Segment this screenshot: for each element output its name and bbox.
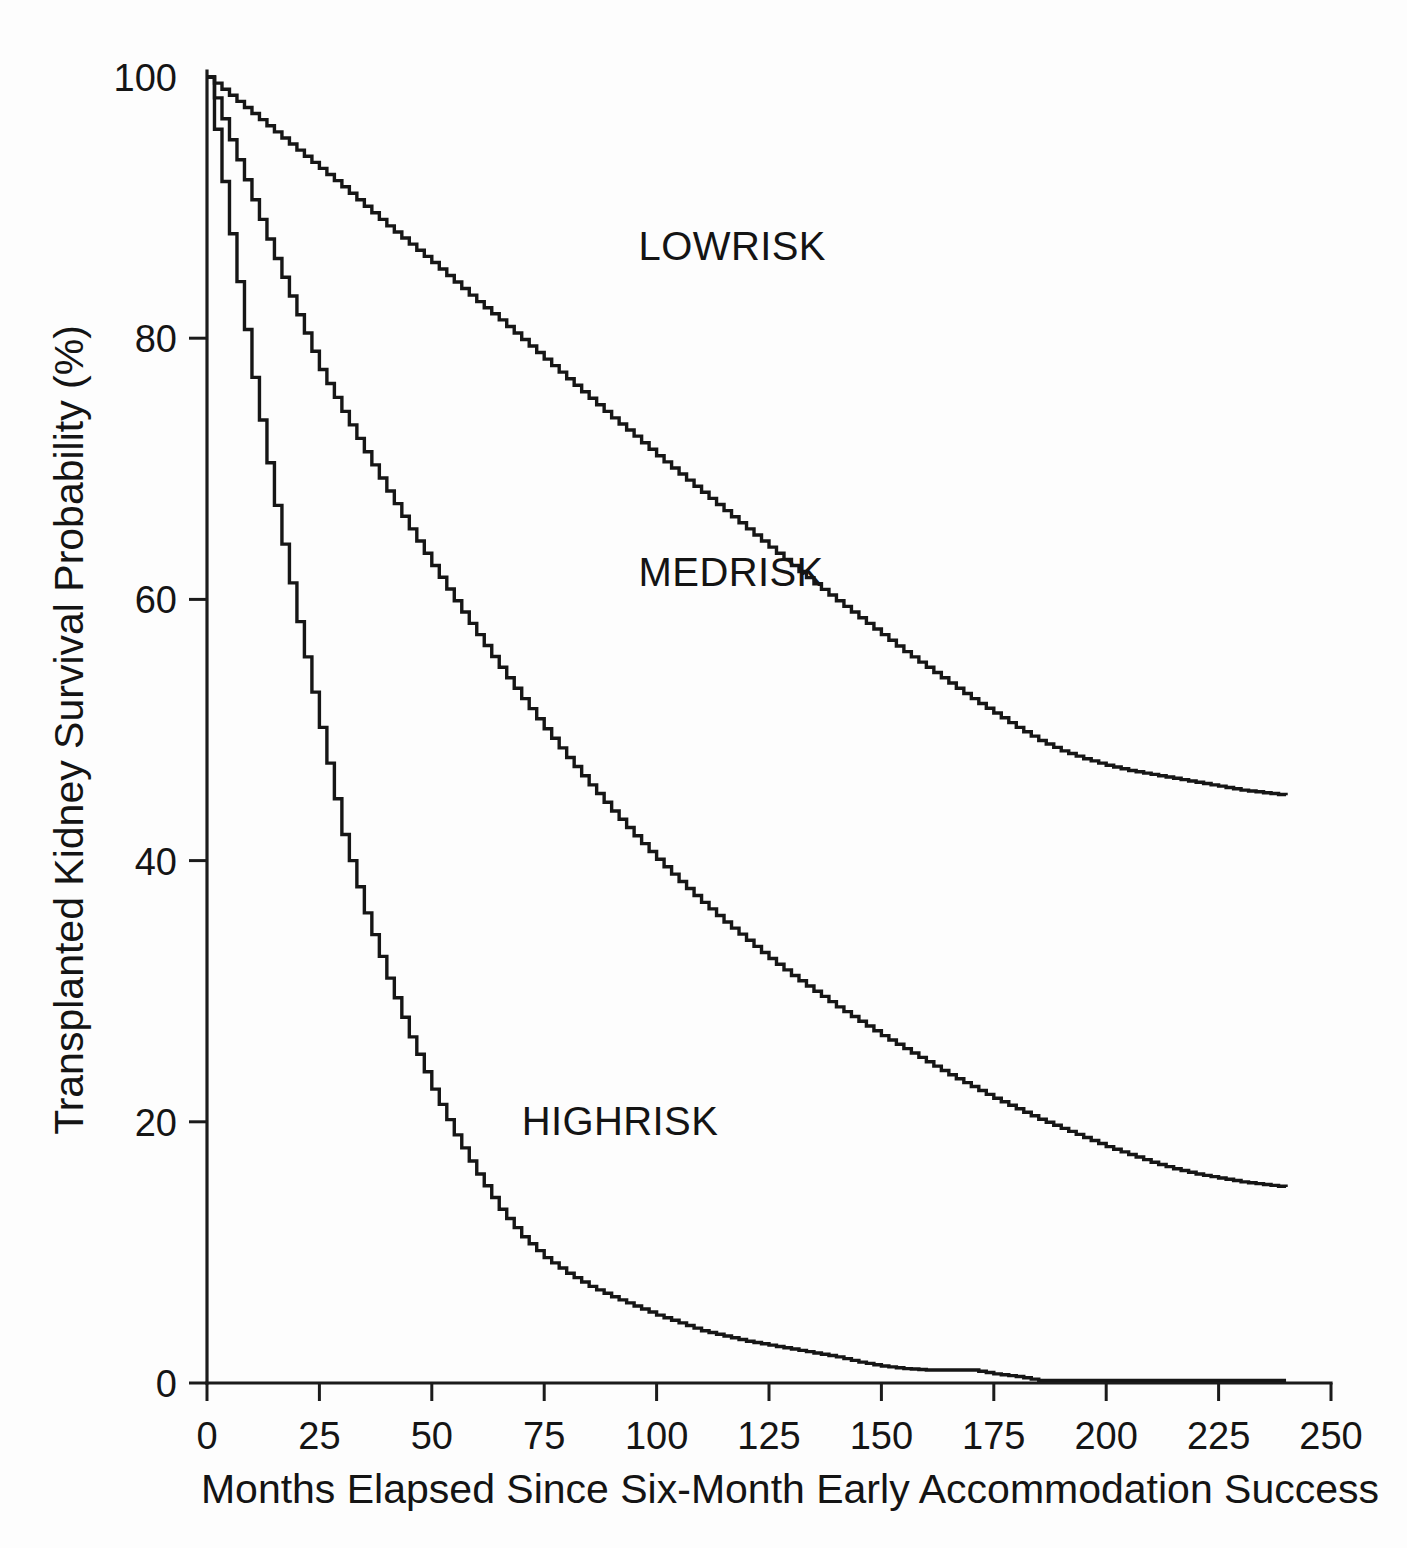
x-tick-label: 250 [1299, 1415, 1362, 1457]
y-tick-label: 40 [135, 841, 177, 883]
x-tick-label: 0 [196, 1415, 217, 1457]
survival-curves [207, 77, 1286, 1380]
y-axis-title: Transplanted Kidney Survival Probability… [46, 325, 92, 1135]
x-tick-label: 175 [962, 1415, 1025, 1457]
y-tick-label: 0 [156, 1363, 177, 1405]
x-tick-label: 225 [1187, 1415, 1250, 1457]
y-tick-label: 100 [114, 57, 177, 99]
series-label-medrisk: MEDRISK [639, 550, 824, 594]
series-annotations: LOWRISKMEDRISKHIGHRISK [522, 224, 826, 1143]
series-label-lowrisk: LOWRISK [639, 224, 826, 268]
x-tick-label: 100 [625, 1415, 688, 1457]
y-tick-label: 80 [135, 318, 177, 360]
x-tick-label: 75 [523, 1415, 565, 1457]
x-tick-label: 25 [298, 1415, 340, 1457]
x-tick-label: 200 [1074, 1415, 1137, 1457]
x-axis-title: Months Elapsed Since Six-Month Early Acc… [201, 1466, 1379, 1512]
survival-curve-highrisk [207, 77, 1286, 1380]
tick-marks [189, 338, 1331, 1401]
x-tick-label: 150 [850, 1415, 913, 1457]
y-tick-label: 60 [135, 579, 177, 621]
x-tick-label: 125 [737, 1415, 800, 1457]
y-tick-label: 20 [135, 1102, 177, 1144]
kaplan-meier-plot: 0255075100125150175200225250020406080100… [0, 0, 1407, 1548]
x-tick-label: 50 [411, 1415, 453, 1457]
survival-curve-lowrisk [207, 77, 1286, 795]
series-label-highrisk: HIGHRISK [522, 1099, 719, 1143]
survival-curve-figure: 0255075100125150175200225250020406080100… [0, 0, 1407, 1548]
